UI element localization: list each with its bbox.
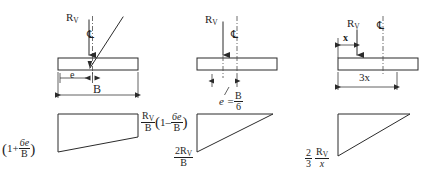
load-label-1: RV	[66, 12, 79, 24]
dim-label-3x-3: 3x	[359, 72, 370, 83]
load-label-2-sub: V	[212, 18, 217, 27]
frac-den-1: B	[19, 149, 30, 159]
load-label-2: RV	[205, 14, 218, 26]
rv-base-1: R	[142, 110, 149, 121]
rv-base-3: R	[316, 146, 323, 157]
pressure-trapezoid-1	[58, 114, 138, 152]
dim-e-arrow-out-1	[95, 76, 101, 81]
frac-num-2-3: 2	[305, 148, 312, 159]
frac-6e-over-B-1: 6e B	[19, 138, 30, 159]
footing-rect-3	[338, 58, 418, 70]
pressure-label-min-1: RV B (1– 6e B )	[141, 112, 188, 134]
load-label-3: RV	[347, 18, 360, 30]
frac-6e-over-B-min-1: 6e B	[171, 112, 182, 133]
dim-e-arrow-left-2	[209, 79, 215, 84]
frac-den-6-2: 6	[234, 102, 243, 112]
one-plus-1: 1+	[7, 142, 19, 154]
case-3-linework	[338, 16, 418, 156]
num-sub-2: V	[187, 149, 192, 158]
frac-den-min-1: B	[171, 123, 182, 133]
pressure-triangle-2	[197, 114, 273, 152]
paren-close-min-1: )	[183, 114, 188, 130]
pressure-label-max-2: 2RV B	[174, 147, 193, 169]
frac-two-thirds-3: 2 3	[305, 148, 312, 169]
frac-2Rv-over-B-2: 2RV B	[174, 146, 193, 168]
num-lead-2: 2R	[175, 145, 187, 156]
frac-den-x-3: x	[315, 159, 329, 169]
one-minus-1: 1–	[160, 116, 171, 128]
pressure-label-max-1: (1+ 6e B )	[2, 139, 35, 160]
centerline-label-2: ℄	[231, 29, 238, 40]
engineering-figure: RV ℄ e B (1+ 6e B ) RV B (1– 6e B ) RV ℄…	[0, 0, 441, 187]
frac-den-3-3: 3	[305, 159, 312, 169]
pressure-label-max-3: 2 3 RV x	[305, 148, 329, 170]
load-label-3-sub: V	[354, 22, 359, 31]
frac-den-2: B	[174, 158, 193, 168]
dim-e-arrow-in-1	[85, 76, 91, 81]
pressure-triangle-3	[338, 114, 410, 156]
centerline-label-1: ℄	[87, 29, 94, 40]
frac-B-over-6-2: B 6	[234, 91, 243, 112]
dim-e-arrow-right-2	[235, 79, 241, 84]
e-equals-lead-2: e =	[219, 95, 234, 107]
dim-label-x-3: x	[343, 33, 348, 43]
paren-close-1: )	[30, 141, 35, 157]
load-label-1-sub: V	[73, 16, 78, 25]
dim-label-B-1: B	[93, 83, 101, 95]
centerline-label-3: ℄	[377, 20, 384, 31]
frac-Rv-over-x-3: RV x	[315, 147, 329, 169]
frac-num-min-1: 6e	[171, 112, 182, 123]
dim-label-e-equals-2: e = B 6	[219, 92, 243, 113]
frac-Rv-over-B-1: RV B	[141, 111, 155, 133]
dim-label-e-1: e	[70, 70, 74, 80]
frac-den-b-1: B	[141, 123, 155, 133]
